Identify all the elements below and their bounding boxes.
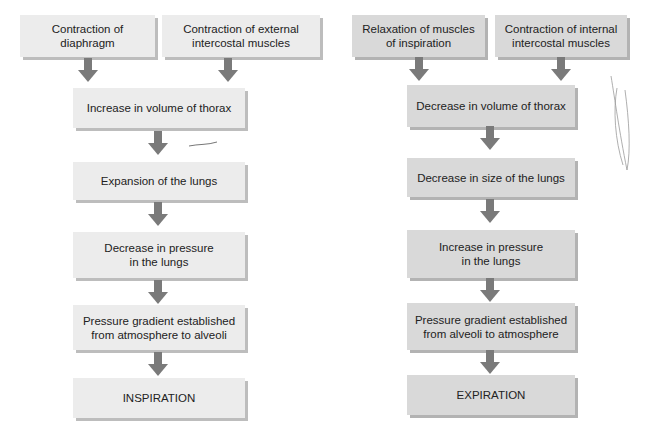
expiration-step-lung-size-decrease: Decrease in size of the lungs [407,158,575,197]
pencil-mark [188,140,218,148]
expiration-result: EXPIRATION [407,375,575,415]
inspiration-input-external-intercostal: Contraction of external intercostal musc… [162,15,320,57]
arrow-down-icon [482,278,498,302]
arrow-down-icon [80,58,96,82]
inspiration-input-diaphragm: Contraction of diaphragm [20,15,155,57]
arrow-down-icon [150,202,166,226]
expiration-step-volume-decrease: Decrease in volume of thorax [407,85,575,127]
arrow-down-icon [150,131,166,155]
arrow-down-icon [482,126,498,150]
expiration-step-pressure-increase: Increase in pressure in the lungs [407,230,575,278]
inspiration-step-pressure-gradient: Pressure gradient established from atmos… [73,305,245,350]
arrow-down-icon [411,57,427,81]
expiration-input-relaxation: Relaxation of muscles of inspiration [352,15,485,57]
inspiration-step-pressure-decrease: Decrease in pressure in the lungs [73,232,245,278]
arrow-down-icon [482,350,498,374]
expiration-input-internal-intercostal: Contraction of internal intercostal musc… [495,15,627,57]
inspiration-step-lung-expansion: Expansion of the lungs [73,162,245,200]
arrow-down-icon [220,58,236,82]
inspiration-step-volume-increase: Increase in volume of thorax [73,88,245,128]
inspiration-result: INSPIRATION [73,378,245,418]
arrow-down-icon [150,352,166,376]
pencil-scribble [605,70,635,180]
arrow-down-icon [150,280,166,304]
arrow-down-icon [482,199,498,223]
arrow-down-icon [553,57,569,81]
expiration-step-pressure-gradient: Pressure gradient established from alveo… [407,303,575,350]
